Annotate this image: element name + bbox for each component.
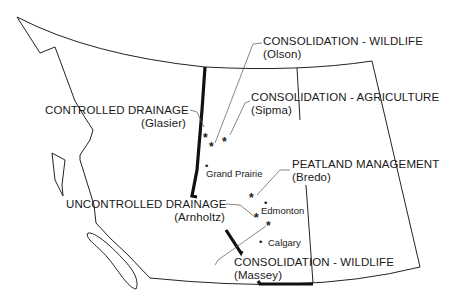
island-large [87, 233, 137, 289]
site-marker-massey: * [266, 220, 271, 232]
label-name: (Arnholtz) [66, 211, 225, 224]
leader-arnholtz [226, 204, 255, 217]
west-coastline [17, 17, 148, 276]
label-category: CONSOLIDATION - WILDLIFE [263, 35, 423, 48]
city-edmonton: Edmonton [261, 205, 304, 216]
label-glasier: CONTROLLED DRAINAGE (Glasier) [45, 104, 186, 130]
label-bredo: PEATLAND MANAGEMENT (Bredo) [292, 158, 439, 184]
label-category: CONTROLLED DRAINAGE [45, 104, 186, 117]
label-category: UNCONTROLLED DRAINAGE [66, 198, 225, 211]
city-dot-calgary: • [259, 236, 262, 247]
label-category: PEATLAND MANAGEMENT [292, 158, 439, 171]
map-canvas: * * * * * * • Grand Prairie • Edmonton •… [0, 0, 455, 306]
label-olson: CONSOLIDATION - WILDLIFE (Olson) [263, 35, 423, 61]
thick-boundary-middle [226, 230, 242, 253]
island-small [52, 153, 65, 196]
label-arnholtz: UNCONTROLLED DRAINAGE (Arnholtz) [66, 198, 225, 224]
label-name: (Bredo) [292, 171, 439, 184]
label-name: (Glasier) [45, 117, 186, 130]
label-name: (Olson) [263, 48, 423, 61]
label-category: CONSOLIDATION - AGRICULTURE [251, 91, 439, 104]
label-massey: CONSOLIDATION - WILDLIFE (Massey) [234, 256, 394, 282]
label-sipma: CONSOLIDATION - AGRICULTURE (Sipma) [251, 91, 439, 117]
site-marker-bredo: * [249, 192, 254, 204]
label-name: (Massey) [234, 269, 394, 282]
site-marker-olson: * [209, 141, 214, 153]
city-grand-prairie: Grand Prairie [206, 168, 263, 179]
label-category: CONSOLIDATION - WILDLIFE [234, 256, 394, 269]
leader-sipma [230, 101, 250, 135]
site-marker-sipma: * [222, 136, 227, 148]
site-marker-glasier: * [203, 132, 208, 144]
city-calgary: Calgary [268, 237, 301, 248]
label-name: (Sipma) [251, 104, 439, 117]
site-marker-arnholtz: * [254, 212, 259, 224]
